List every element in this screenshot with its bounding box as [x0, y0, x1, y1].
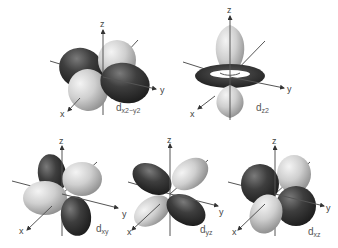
y-axis-label: y: [326, 204, 331, 213]
x-axis-label: x: [19, 227, 24, 236]
z-axis-label: z: [100, 20, 105, 29]
z-axis-label: z: [167, 136, 172, 145]
orbital-label-dxy: dxy: [96, 224, 109, 235]
dx2-y2-orbital-graphic: [0, 0, 170, 124]
x-axis-label: x: [190, 110, 195, 119]
y-axis-label: y: [160, 86, 165, 95]
orbital-panel-dyz: z y x dyz: [110, 124, 220, 248]
orbital-label-dxz: dxz: [308, 227, 321, 238]
orbital-label-dz2: dz2: [256, 103, 269, 114]
orbital-panel-dxz: z y y x dxz: [220, 124, 338, 248]
dz2-orbital-graphic: [170, 0, 338, 124]
orbital-panel-dx2-y2: z y x dx2−y2: [0, 0, 170, 124]
z-axis-label: z: [272, 137, 277, 146]
orbital-panel-dz2: z y x dz2: [170, 0, 338, 124]
z-axis-label: z: [227, 6, 232, 15]
orbital-label-dx2-y2: dx2−y2: [116, 103, 140, 114]
orbital-label-dyz: dyz: [200, 225, 213, 236]
x-axis-label: x: [60, 110, 65, 119]
orbital-panel-dxy: z x dxy: [0, 124, 120, 248]
y-axis-label-prev-panel: y: [122, 210, 127, 219]
z-axis-label: z: [59, 137, 64, 146]
y-axis-label-prev-panel: y: [219, 208, 224, 217]
x-axis-label: x: [127, 228, 132, 237]
y-axis-label: y: [287, 85, 292, 94]
x-axis-label: x: [232, 228, 237, 237]
